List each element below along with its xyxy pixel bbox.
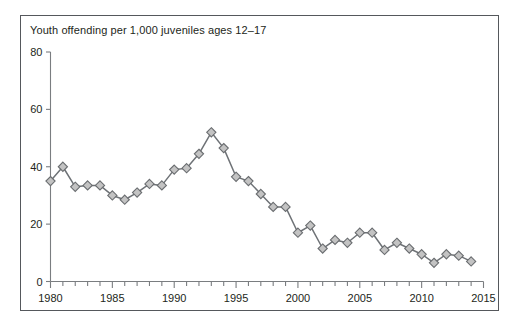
data-point-marker <box>405 244 414 253</box>
x-tick-label: 1995 <box>224 292 248 304</box>
x-tick-label: 1990 <box>162 292 186 304</box>
data-point-marker <box>330 235 339 244</box>
data-point-marker <box>281 202 290 211</box>
x-tick-label: 2015 <box>471 292 495 304</box>
chart-figure: Youth offending per 1,000 juveniles ages… <box>0 0 521 325</box>
data-point-marker <box>306 221 315 230</box>
data-point-marker <box>71 182 80 191</box>
data-point-marker <box>293 228 302 237</box>
data-point-marker <box>318 244 327 253</box>
data-point-marker <box>120 195 129 204</box>
data-point-marker <box>231 172 240 181</box>
data-point-marker <box>133 188 142 197</box>
data-point-marker <box>454 251 463 260</box>
data-point-marker <box>145 179 154 188</box>
data-point-marker <box>429 258 438 267</box>
x-tick-label: 2005 <box>348 292 372 304</box>
data-point-marker <box>417 250 426 259</box>
data-point-marker <box>442 250 451 259</box>
y-tick-label: 60 <box>30 103 42 115</box>
x-tick-label: 1980 <box>38 292 62 304</box>
y-tick-label: 0 <box>36 276 42 288</box>
y-tick-label: 80 <box>30 46 42 58</box>
y-tick-label: 20 <box>30 218 42 230</box>
data-point-marker <box>83 181 92 190</box>
x-tick-label: 2010 <box>409 292 433 304</box>
data-point-marker <box>392 238 401 247</box>
x-tick-label: 2000 <box>286 292 310 304</box>
data-point-marker <box>467 257 476 266</box>
y-tick-label: 40 <box>30 161 42 173</box>
chart-plot-area: 0204060801980198519901995200020052010201… <box>0 0 521 325</box>
x-tick-label: 1985 <box>100 292 124 304</box>
